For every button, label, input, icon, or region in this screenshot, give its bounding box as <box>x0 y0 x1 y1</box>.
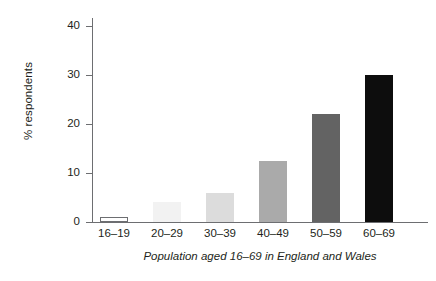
x-axis-caption: Population aged 16–69 in England and Wal… <box>92 250 428 262</box>
bar-40-49 <box>259 161 287 222</box>
y-tick-label: 0 <box>52 216 80 228</box>
x-axis-line <box>92 222 428 223</box>
y-tick-10: 10 <box>0 173 92 174</box>
y-tick-0: 0 <box>0 222 92 223</box>
y-tick-mark <box>86 124 92 125</box>
bar-20-29 <box>153 202 181 222</box>
x-tick-label-50-59: 50–59 <box>296 228 356 240</box>
x-tick-label-16-19: 16–19 <box>84 228 144 240</box>
bar-30-39 <box>206 193 234 222</box>
y-axis-label: % respondents <box>22 26 40 176</box>
y-tick-label: 40 <box>52 20 80 32</box>
y-tick-mark <box>86 173 92 174</box>
y-tick-mark <box>86 26 92 27</box>
x-tick-label-30-39: 30–39 <box>190 228 250 240</box>
y-tick-mark <box>86 75 92 76</box>
y-tick-label: 20 <box>52 118 80 130</box>
y-tick-40: 40 <box>0 26 92 27</box>
y-tick-20: 20 <box>0 124 92 125</box>
y-tick-label: 30 <box>52 69 80 81</box>
bar-16-19 <box>100 217 128 222</box>
x-tick-label-40-49: 40–49 <box>243 228 303 240</box>
y-tick-label: 10 <box>52 167 80 179</box>
y-tick-mark <box>86 222 92 223</box>
y-axis-line <box>92 18 93 223</box>
y-tick-30: 30 <box>0 75 92 76</box>
x-tick-label-60-69: 60–69 <box>349 228 409 240</box>
bar-50-59 <box>312 114 340 222</box>
bar-60-69 <box>365 75 393 222</box>
bar-chart: % respondents 010203040 16–1920–2930–394… <box>0 0 436 281</box>
plot-area: % respondents 010203040 16–1920–2930–394… <box>0 0 436 281</box>
x-tick-label-20-29: 20–29 <box>137 228 197 240</box>
